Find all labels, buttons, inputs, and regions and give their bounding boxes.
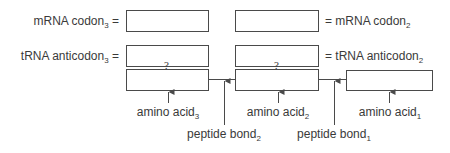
mrna-codon2-box[interactable]: [236, 11, 319, 32]
amino-acid3-box[interactable]: [127, 70, 209, 91]
amino-acid3-label: amino acid3: [137, 105, 200, 121]
mrna-codon2-label: = mRNA codon2: [325, 14, 411, 30]
trna-anticodon2-label: = tRNA anticodon2: [325, 49, 424, 65]
mrna-codon3-box[interactable]: [127, 11, 209, 32]
trna-anticodon3-label: tRNA anticodon3 =: [21, 49, 119, 65]
question-mark-2: ?: [274, 59, 279, 71]
amino-acid1-box[interactable]: [347, 71, 433, 91]
translation-diagram: ? ? mRNA codon3 = tRNA anticodon3 = = mR…: [0, 0, 450, 153]
peptide-bond1-label: peptide bond1: [297, 127, 371, 143]
mrna-codon3-label: mRNA codon3 =: [34, 14, 120, 30]
question-mark-3: ?: [164, 59, 169, 71]
amino-acid2-box[interactable]: [236, 70, 319, 91]
amino-acid2-label: amino acid2: [247, 105, 310, 121]
amino-acid1-label: amino acid1: [359, 105, 422, 121]
peptide-bond2-label: peptide bond2: [187, 127, 261, 143]
